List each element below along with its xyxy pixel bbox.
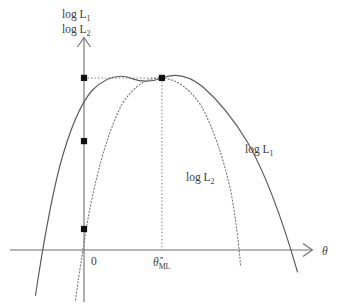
chart-canvas: log L1 log L2 θ 0 θ̂ML log L1 log L2 — [0, 0, 353, 308]
log-likelihood-figure: log L1 log L2 θ 0 θ̂ML log L1 log L2 — [0, 0, 353, 308]
annotation-curve-label-l1: log L1 — [245, 143, 274, 158]
annotation-curve-label-l2: log L2 — [186, 171, 215, 186]
x-tick-label-zero: 0 — [91, 255, 97, 267]
point-logl2-at-zero — [81, 226, 87, 232]
x-tick-label-group: 0 θ̂ML — [91, 255, 171, 271]
x-tick-label-mle: θ̂ML — [153, 256, 171, 271]
point-logl1-at-zero — [81, 138, 87, 144]
y-axis-title-line-1: log L1 — [62, 8, 91, 23]
y-axis-title-group: log L1 log L2 — [62, 8, 91, 38]
x-axis-title: θ — [322, 245, 328, 257]
point-max-value-on-y-axis — [81, 75, 87, 81]
guide-line-group — [84, 78, 162, 250]
data-point-group — [81, 75, 165, 232]
curve-annotation-group: log L1 log L2 — [186, 143, 274, 186]
point-shared-maximum — [159, 75, 165, 81]
y-axis-title-line-2: log L2 — [62, 23, 91, 38]
